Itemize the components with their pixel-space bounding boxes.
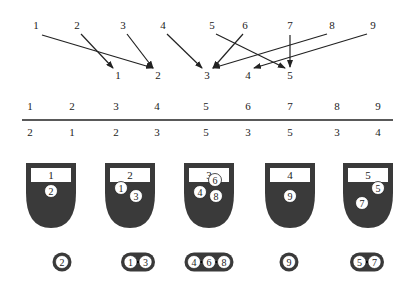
chain-item-label: 1	[128, 257, 133, 268]
mapping-key-label: 7	[287, 19, 293, 31]
mapping-key-label: 6	[242, 19, 248, 31]
mapping-arrows	[42, 34, 367, 68]
bucket-item-label: 8	[214, 191, 219, 202]
table-key-cell: 3	[113, 100, 119, 112]
key-to-bucket-mapping: 123456789 12345	[33, 19, 376, 81]
table-key-cell: 4	[154, 100, 160, 112]
chain-item-label: 5	[357, 257, 362, 268]
bucket-item-label: 3	[134, 191, 139, 202]
mapping-target-label: 3	[204, 69, 210, 81]
mapping-table: 123456789 212353534	[22, 100, 393, 138]
chain: 57	[350, 253, 384, 272]
table-value-cell: 3	[334, 126, 340, 138]
bucket: 49	[265, 163, 315, 228]
mapping-key-label: 8	[329, 19, 335, 31]
bucket: 213	[105, 163, 155, 228]
bucket-item-label: 4	[198, 187, 203, 198]
mapping-key-label: 5	[209, 19, 215, 31]
bucket-item-label: 5	[376, 183, 381, 194]
table-value-cell: 2	[27, 126, 33, 138]
bucket-item-label: 9	[288, 191, 293, 202]
mapping-target-label: 2	[155, 69, 161, 81]
mapping-arrow	[216, 34, 285, 68]
table-value-cell: 2	[113, 126, 119, 138]
table-key-cell: 5	[203, 100, 209, 112]
mapping-key-label: 1	[33, 19, 39, 31]
mapping-arrow	[81, 34, 113, 68]
mapping-arrow	[127, 34, 153, 68]
chain-item-label: 9	[287, 257, 292, 268]
table-value-row: 212353534	[27, 126, 381, 138]
mapping-key-label: 2	[74, 19, 80, 31]
mapping-target-label: 4	[245, 69, 251, 81]
table-value-cell: 5	[287, 126, 293, 138]
table-key-cell: 8	[334, 100, 340, 112]
table-value-cell: 4	[375, 126, 381, 138]
table-value-cell: 3	[245, 126, 251, 138]
mapping-arrow	[213, 34, 243, 68]
chains: 213468957	[53, 253, 385, 272]
chain: 468	[185, 253, 234, 272]
table-value-cell: 5	[203, 126, 209, 138]
chain-item-label: 3	[143, 257, 148, 268]
chain-item-label: 6	[207, 257, 212, 268]
bucket: 3648	[184, 163, 234, 228]
table-key-cell: 7	[287, 100, 293, 112]
bucket: 557	[343, 163, 393, 228]
bucket-label: 5	[365, 169, 371, 181]
table-key-cell: 6	[245, 100, 251, 112]
mapping-key-label: 4	[160, 19, 166, 31]
chain: 2	[53, 253, 72, 272]
chain-item-label: 7	[372, 257, 377, 268]
bucket-item-label: 1	[119, 183, 124, 194]
bucket-label: 1	[48, 169, 54, 181]
bucket-item-label: 2	[49, 186, 54, 197]
mapping-targets: 12345	[115, 69, 293, 81]
buckets: 12213364849557	[26, 163, 393, 228]
chain-item-label: 2	[60, 257, 65, 268]
table-value-cell: 3	[154, 126, 160, 138]
table-value-cell: 1	[69, 126, 75, 138]
bucket-item-label: 6	[213, 175, 218, 186]
table-key-cell: 9	[375, 100, 381, 112]
chain: 9	[280, 253, 299, 272]
bucket-label: 4	[287, 169, 293, 181]
mapping-target-label: 5	[287, 69, 293, 81]
mapping-arrow	[167, 34, 202, 68]
bucket: 12	[26, 163, 76, 228]
table-key-row: 123456789	[27, 100, 381, 112]
table-key-cell: 1	[27, 100, 33, 112]
bucket-label: 2	[127, 169, 133, 181]
hash-diagram: 123456789 12345 123456789 212353534 1221…	[0, 0, 415, 290]
chain: 13	[121, 253, 155, 272]
mapping-keys: 123456789	[33, 19, 376, 31]
chain-item-label: 4	[192, 257, 197, 268]
mapping-key-label: 3	[120, 19, 126, 31]
mapping-key-label: 9	[370, 19, 376, 31]
chain-item-label: 8	[222, 257, 227, 268]
bucket-item-label: 7	[360, 198, 365, 209]
mapping-target-label: 1	[115, 69, 121, 81]
table-key-cell: 2	[69, 100, 75, 112]
